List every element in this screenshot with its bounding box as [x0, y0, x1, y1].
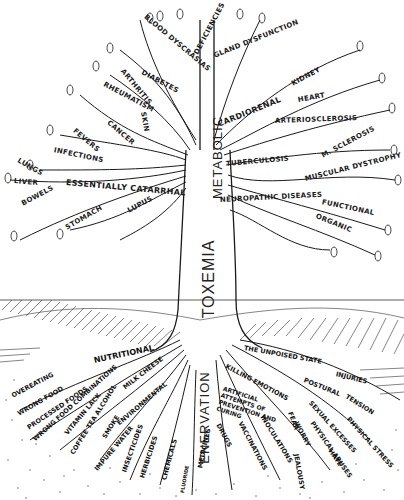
- tree-diagram: METABOLIC TOXEMIA ENERVATION BLOOD DYSCR…: [0, 0, 404, 500]
- right-branches: [214, 20, 395, 255]
- left-branches: [10, 20, 196, 240]
- trunk-label-toxemia: TOXEMIA: [200, 240, 218, 319]
- trunk-label-metabolic: METABOLIC: [210, 116, 225, 199]
